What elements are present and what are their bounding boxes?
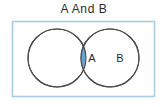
- venn-diagram-figure: A And B A B: [0, 0, 168, 107]
- set-a-label: A: [88, 52, 96, 64]
- venn-diagram-canvas: A B: [0, 0, 168, 107]
- set-b-label: B: [116, 52, 124, 64]
